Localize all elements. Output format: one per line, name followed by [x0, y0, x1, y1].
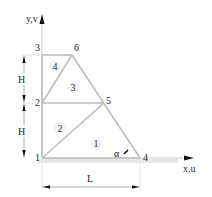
height-upper-label: H [18, 74, 25, 85]
angle-pointer-icon [124, 150, 128, 154]
element-1-label: 1 [94, 138, 99, 149]
element-4-label: 4 [53, 61, 58, 72]
node-5-label: 5 [106, 95, 111, 106]
height-lower-label: H [18, 126, 25, 137]
length-label: L [87, 173, 93, 184]
element-3-label: 3 [71, 82, 76, 93]
node-1-label: 1 [35, 152, 40, 163]
node-3-label: 3 [35, 42, 40, 53]
node-6-label: 6 [74, 42, 79, 53]
y-axis-label: y,v [26, 13, 38, 24]
angle-label: α [114, 148, 120, 159]
element-labels: 4 3 2 1 [49, 60, 102, 149]
y-axis-arrow-icon [40, 14, 45, 24]
node-2-label: 2 [35, 97, 40, 108]
fem-mesh-diagram: 4 3 2 1 3 6 2 5 1 4 y,v x,u α H H L [0, 0, 212, 197]
dim-arrow-icon [22, 95, 25, 102]
dim-arrow-icon [22, 150, 25, 157]
x-axis-label: x,u [183, 163, 196, 174]
ground-hatch [38, 159, 178, 163]
dim-arrow-icon [22, 104, 25, 111]
node-4-label: 4 [143, 152, 148, 163]
dim-arrow-icon [22, 56, 25, 63]
x-axis-arrow-icon [184, 156, 194, 161]
dim-arrow-icon [132, 185, 139, 188]
element-2-label: 2 [58, 123, 63, 134]
dim-arrow-icon [43, 185, 50, 188]
